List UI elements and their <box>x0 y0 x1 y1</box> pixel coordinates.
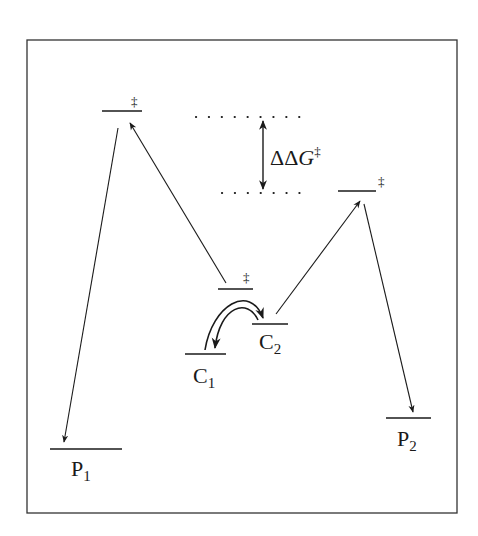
p1-label: P1 <box>71 456 91 484</box>
arrow-c2-to-c1 <box>215 308 258 348</box>
arrow-c1-to-ts1 <box>130 123 226 283</box>
ts2-double-dagger: ‡ <box>378 174 385 189</box>
energy-diagram: ‡ ‡ ‡ C2 C1 P1 P2 ΔΔG‡ <box>0 0 478 536</box>
ts1-double-dagger: ‡ <box>131 94 138 109</box>
arrow-ts2-to-p2 <box>364 204 413 412</box>
p2-label: P2 <box>397 426 417 454</box>
c2-label: C2 <box>259 329 281 357</box>
diagram-frame <box>27 40 457 513</box>
arrow-c1-to-c2 <box>205 301 263 350</box>
arrow-c2-to-ts2 <box>276 201 360 314</box>
arrow-ts1-to-p1 <box>64 128 118 442</box>
ts-interconversion-double-dagger: ‡ <box>243 270 250 285</box>
c1-label: C1 <box>193 363 215 391</box>
ddg-label: ΔΔG‡ <box>270 144 321 170</box>
